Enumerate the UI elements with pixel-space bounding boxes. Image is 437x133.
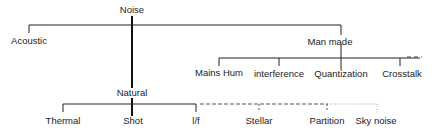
node-sky-noise: Sky noise [355, 116, 396, 126]
node-noise: Noise [120, 5, 144, 15]
noise-classification-tree: Noise Acoustic Man made Mains Hum interf… [0, 0, 437, 133]
node-partition: Partition [310, 116, 345, 126]
node-thermal: Thermal [46, 116, 81, 126]
node-quantization: Quantization [314, 69, 367, 79]
node-stellar: Stellar [246, 116, 273, 126]
node-1-over-f: l/f [192, 116, 199, 126]
node-interference: interference [254, 69, 304, 79]
node-crosstalk: Crosstalk [382, 69, 422, 79]
node-natural: Natural [115, 88, 150, 98]
node-man-made: Man made [308, 37, 353, 47]
node-acoustic: Acoustic [11, 36, 47, 46]
node-shot: Shot [123, 116, 143, 126]
node-mains-hum: Mains Hum [195, 68, 243, 78]
